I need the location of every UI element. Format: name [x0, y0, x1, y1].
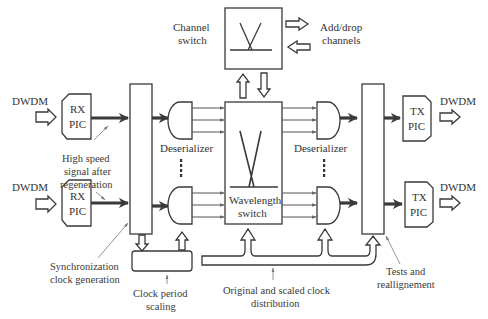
annotation-sync-clock: Synchronization clock generation	[50, 223, 128, 285]
up-arrow-icon	[237, 74, 249, 98]
deserializer-left-label: Deserializer	[160, 142, 213, 154]
channel-switch-line1: Channel	[173, 21, 210, 33]
rx-pic-block	[62, 94, 91, 139]
add-drop-line1: Add/drop	[320, 21, 363, 33]
sync-clock-line1: Synchronization	[50, 261, 120, 272]
output-dwdm-2: TX PIC DWDM	[384, 181, 476, 227]
clock-period-line2: scaling	[146, 301, 176, 312]
tx-pic-line2: PIC	[408, 120, 425, 132]
optical-regenerator-diagram: DWDM RX PIC DWDM RX PIC Deserializer	[0, 0, 488, 319]
annotation-tests: Tests and reallignement	[377, 236, 435, 290]
high-speed-line2: signal after	[64, 166, 111, 177]
clock-distribution-bus	[202, 229, 380, 265]
dwdm-label: DWDM	[440, 95, 476, 107]
hollow-arrow-icon	[440, 110, 460, 124]
wavelength-switch-line2: switch	[238, 207, 267, 219]
deserializer-left-top	[152, 102, 224, 139]
output-dwdm-1: TX PIC DWDM	[384, 95, 476, 141]
deserializer-left-bottom	[152, 187, 224, 224]
high-speed-line3: regeneration	[60, 179, 113, 190]
deserializer-right-top	[282, 102, 357, 139]
tx-pic-block	[405, 182, 433, 227]
rx-pic-line1: RX	[70, 190, 85, 202]
add-drop-line2: channels	[322, 34, 360, 46]
dwdm-label: DWDM	[12, 95, 48, 107]
deserializer-right-label: Deserializer	[294, 142, 347, 154]
tx-pic-line1: TX	[412, 191, 427, 203]
high-speed-line1: High speed	[62, 153, 110, 164]
clock-period-line1: Clock period	[133, 288, 188, 299]
hollow-arrow-icon	[36, 109, 56, 125]
clock-period-scaling-block	[132, 251, 192, 271]
tx-pic-block	[403, 96, 431, 141]
rx-pic-line2: PIC	[69, 118, 86, 130]
ellipsis-dots-right	[323, 159, 325, 177]
clock-distribution-line2: distribution	[251, 298, 300, 309]
channel-switch-line2: switch	[178, 34, 207, 46]
rx-pic-line1: RX	[70, 103, 85, 115]
down-arrow-icon	[258, 73, 270, 97]
wavelength-switch-line1: Wavelength	[229, 194, 282, 206]
wavelength-switch: Wavelength switch	[225, 102, 282, 224]
dwdm-label: DWDM	[12, 181, 48, 193]
annotation-clock-distribution: Original and scaled clock distribution	[223, 268, 331, 309]
deserializer-right-bottom	[282, 187, 357, 224]
tx-pic-line1: TX	[410, 105, 425, 117]
down-arrow-icon	[136, 235, 148, 251]
input-dwdm-1: DWDM RX PIC	[12, 94, 128, 139]
up-arrow-icon	[176, 232, 188, 250]
channel-switch: Channel switch Add/drop channels	[173, 8, 363, 98]
tests-line1: Tests and	[386, 266, 426, 277]
rx-pic-line2: PIC	[69, 205, 86, 217]
sync-clock-line2: clock generation	[50, 274, 120, 285]
hollow-arrow-icon	[36, 196, 56, 212]
tx-pic-line2: PIC	[410, 206, 427, 218]
synchronization-block	[130, 84, 152, 234]
annotation-clock-period: Clock period scaling	[133, 275, 188, 312]
add-channel-arrow-icon	[286, 18, 308, 30]
drop-channel-arrow-icon	[288, 41, 310, 53]
realignment-block	[362, 84, 384, 234]
dwdm-label: DWDM	[440, 181, 476, 193]
clock-distribution-line1: Original and scaled clock	[223, 285, 331, 296]
hollow-arrow-icon	[440, 196, 460, 210]
tests-line2: reallignement	[377, 279, 435, 290]
ellipsis-dots-left	[180, 159, 182, 177]
